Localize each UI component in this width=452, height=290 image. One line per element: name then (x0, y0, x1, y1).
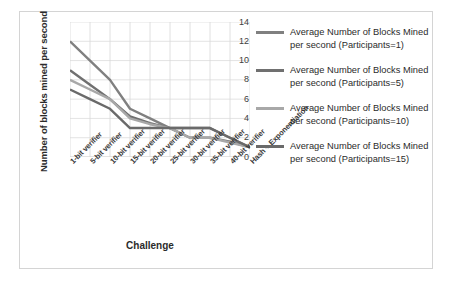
legend-label: Average Number of Blocks Mined per secon… (290, 102, 431, 128)
chart-legend: Average Number of Blocks Mined per secon… (256, 26, 431, 178)
legend-label: Average Number of Blocks Mined per secon… (290, 140, 431, 166)
y-tick-label: 12 (223, 37, 249, 46)
legend-item[interactable]: Average Number of Blocks Mined per secon… (256, 26, 431, 56)
legend-swatch-icon (256, 107, 284, 110)
legend-swatch-icon (256, 145, 284, 148)
x-axis-ticks: 1-bit verifier5-bit verifier10-bit verif… (70, 158, 270, 238)
legend-label: Average Number of Blocks Mined per secon… (290, 64, 431, 90)
y-axis-title: Number of blocks mined per second (38, 7, 49, 177)
y-tick-label: 14 (223, 18, 249, 27)
y-tick-label: 10 (223, 56, 249, 65)
y-tick-label: 8 (223, 75, 249, 84)
y-tick-label: 6 (223, 95, 249, 104)
legend-swatch-icon (256, 69, 284, 72)
chart-container: Number of blocks mined per second 141210… (19, 11, 433, 269)
legend-label: Average Number of Blocks Mined per secon… (290, 26, 431, 52)
legend-item[interactable]: Average Number of Blocks Mined per secon… (256, 102, 431, 132)
x-axis-title: Challenge (60, 240, 240, 251)
y-tick-label: 4 (223, 114, 249, 123)
legend-swatch-icon (256, 31, 284, 34)
legend-item[interactable]: Average Number of Blocks Mined per secon… (256, 140, 431, 170)
legend-item[interactable]: Average Number of Blocks Mined per secon… (256, 64, 431, 94)
